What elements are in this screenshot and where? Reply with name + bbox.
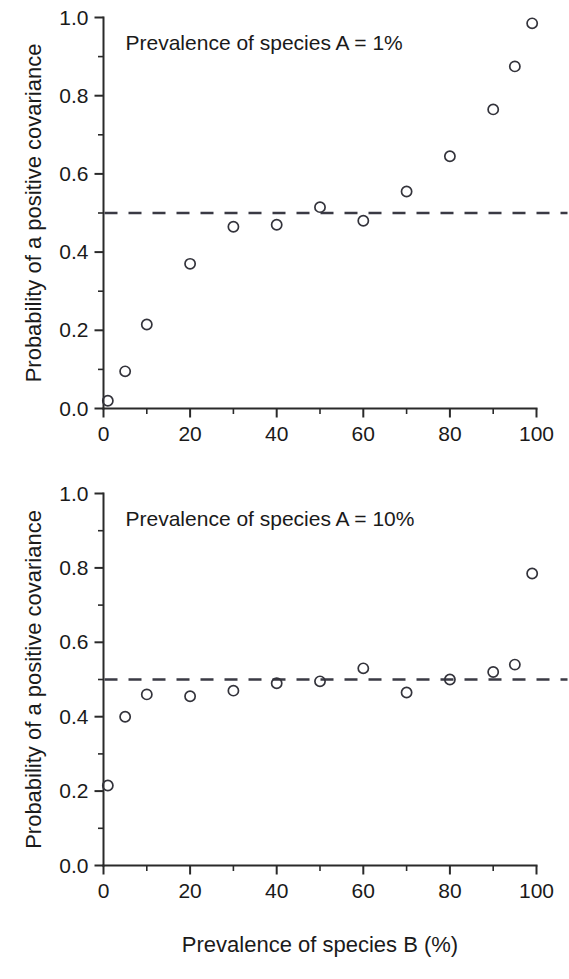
x-tick-label: 60 bbox=[352, 879, 375, 902]
x-tick-label: 20 bbox=[178, 422, 201, 445]
y-tick-label: 1.0 bbox=[59, 482, 88, 505]
y-tick-label: 0.8 bbox=[59, 556, 88, 579]
scatter-figure: 0.00.20.40.60.81.0020406080100Prevalence… bbox=[0, 0, 569, 979]
panel-annotation-text: Prevalence of species A = 10% bbox=[126, 507, 415, 530]
y-tick-label: 0.4 bbox=[59, 705, 89, 728]
y-tick-label: 1.0 bbox=[59, 6, 88, 29]
y-tick-label: 0.0 bbox=[59, 397, 88, 420]
x-tick-label: 40 bbox=[265, 879, 288, 902]
figure-container: 0.00.20.40.60.81.0020406080100Prevalence… bbox=[0, 0, 569, 979]
x-tick-label: 80 bbox=[438, 422, 461, 445]
x-tick-label: 20 bbox=[178, 879, 201, 902]
x-tick-label: 0 bbox=[98, 422, 110, 445]
y-tick-label: 0.6 bbox=[59, 630, 88, 653]
y-tick-label: 0.2 bbox=[59, 318, 88, 341]
x-tick-label: 40 bbox=[265, 422, 288, 445]
x-tick-label: 100 bbox=[519, 879, 554, 902]
x-tick-label: 0 bbox=[98, 879, 110, 902]
x-tick-label: 60 bbox=[352, 422, 375, 445]
y-tick-label: 0.0 bbox=[59, 854, 88, 877]
shared-axis-labels: Prevalence of species B (%) bbox=[182, 932, 458, 957]
y-tick-label: 0.6 bbox=[59, 162, 88, 185]
y-tick-label: 0.8 bbox=[59, 84, 88, 107]
y-axis-title: Probability of a positive covariance bbox=[21, 44, 46, 383]
y-tick-label: 0.2 bbox=[59, 779, 88, 802]
x-tick-label: 100 bbox=[519, 422, 554, 445]
y-tick-label: 0.4 bbox=[59, 240, 89, 263]
x-axis-title: Prevalence of species B (%) bbox=[182, 932, 458, 957]
x-tick-label: 80 bbox=[438, 879, 461, 902]
panel-annotation-text: Prevalence of species A = 1% bbox=[126, 31, 403, 54]
y-axis-title: Probability of a positive covariance bbox=[21, 510, 46, 849]
